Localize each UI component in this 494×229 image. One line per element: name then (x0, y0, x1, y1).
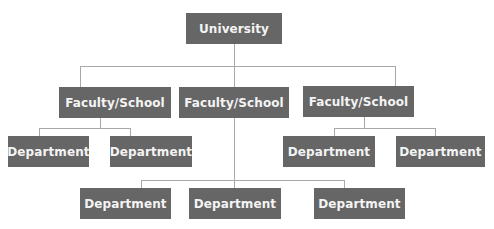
connector (39, 128, 131, 129)
node-department: Department (8, 136, 89, 167)
connector (364, 117, 365, 128)
node-department: Department (314, 188, 405, 219)
node-label: Department (399, 145, 481, 159)
node-label: Department (318, 197, 400, 211)
connector (39, 128, 40, 136)
connector (100, 118, 101, 128)
connector (80, 66, 396, 67)
connector (334, 128, 436, 129)
connector (141, 180, 142, 188)
connector (130, 128, 131, 136)
connector (395, 66, 396, 86)
node-label: University (199, 22, 269, 36)
node-faculty-3: Faculty/School (303, 86, 414, 117)
node-department: Department (80, 188, 171, 219)
node-department: Department (396, 136, 485, 167)
connector (344, 180, 345, 188)
node-university: University (186, 13, 282, 44)
connector (234, 118, 235, 188)
node-label: Faculty/School (184, 96, 284, 110)
node-label: Department (288, 145, 370, 159)
node-label: Faculty/School (65, 96, 165, 110)
node-department: Department (283, 136, 375, 167)
node-label: Department (194, 197, 276, 211)
connector (141, 180, 345, 181)
node-faculty-1: Faculty/School (59, 87, 171, 118)
node-department: Department (110, 136, 192, 167)
node-label: Department (84, 197, 166, 211)
org-chart: University Faculty/School Faculty/School… (0, 0, 494, 229)
node-label: Department (7, 145, 89, 159)
node-faculty-2: Faculty/School (179, 87, 289, 118)
connector (435, 128, 436, 136)
node-label: Department (110, 145, 192, 159)
node-label: Faculty/School (309, 95, 409, 109)
node-department: Department (189, 188, 281, 219)
connector (80, 66, 81, 87)
connector (334, 128, 335, 136)
